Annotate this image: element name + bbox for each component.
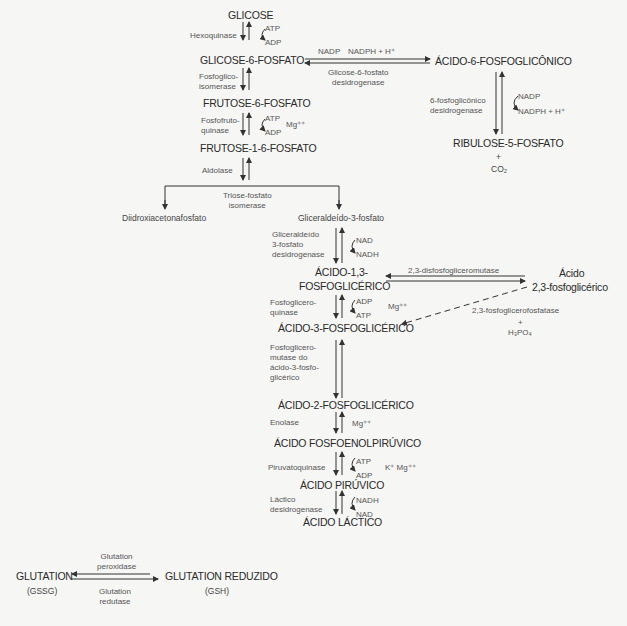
cofactor-bpgp-h3po4: H₃PO₄ <box>508 328 532 338</box>
metabolite-diidroxiacetonafosfato: Diidroxiacetonafosfato <box>122 214 206 223</box>
cofactor-enolase-mg: Mg⁺⁺ <box>352 419 371 429</box>
enzyme-fosfogliceromutase: Fosfoglicero-mutase doácido-3-fosfo-glic… <box>270 343 319 383</box>
metabolite-frutose-6-fosfato: FRUTOSE-6-FOSFATO <box>203 98 310 109</box>
metabolite-acido-fosfoenolpiruvico: ÁCIDO FOSFOENOLPIRÚVICO <box>274 438 421 449</box>
cofactor-pk-atp: ATP <box>356 457 371 467</box>
enzyme-glicose-6-fosfato-desidrogenase: Glicose-6-fosfatodesidrogenase <box>328 68 388 88</box>
metabolite-acido-23-fosfoglicerico-line2: 2,3-fosfoglicérico <box>532 282 608 293</box>
cofactor-g6pd-nadp: NADP <box>318 47 340 57</box>
enzyme-glutation-redutase: Glutationredutase <box>99 587 131 607</box>
metabolite-acido-13-fosfoglicerico-line1: ÁCIDO-1,3- <box>315 267 368 278</box>
enzyme-fosfofrutoquinase: Fosfofruto-quinase <box>201 116 240 136</box>
metabolite-acido-3-fosfoglicerico: ÁCIDO-3-FOSFOGLICÉRICO <box>278 323 414 334</box>
cofactor-pfk-mg: Mg⁺⁺ <box>286 120 305 130</box>
cofactor-pfk-atp: ATP <box>265 114 280 124</box>
cofactor-gapdh-nadh: NADH <box>356 250 379 260</box>
cofactor-pgk-mg: Mg⁺⁺ <box>388 302 407 312</box>
cofactor-pgd-nadp: NADP <box>518 92 540 102</box>
metabolite-acido-piruvico: ÁCIDO PIRÚVICO <box>300 480 384 491</box>
enzyme-6-fosfoglicônico-desidrogenase: 6-fosfoglicônicodesidrogenase <box>430 96 486 116</box>
enzyme-enolase: Enolase <box>270 418 299 428</box>
cofactor-pgk-atp: ATP <box>356 311 371 321</box>
enzyme-fosfogliceroquinase: Fosfoglicero-quinase <box>270 298 316 318</box>
metabolite-glicose: GLICOSE <box>228 10 273 21</box>
enzyme-triose-fosfato-isomerase: Triose-fosfatoisomerase <box>223 191 272 211</box>
enzyme-gliceraldeido-3-fosfato-desidrogenase: Gliceraldeído3-fosfatodesidrogenase <box>272 230 324 260</box>
cofactor-pgk-adp: ADP <box>356 297 372 307</box>
cofactor-pk-ions: K⁺ Mg⁺⁺ <box>385 463 416 473</box>
metabolite-co2: CO₂ <box>491 165 507 174</box>
enzyme-hexoquinase: Hexoquinase <box>190 31 237 41</box>
metabolite-gssg-abbr: (GSSG) <box>27 587 57 596</box>
cofactor-hk-adp: ADP <box>265 38 281 48</box>
enzyme-23-disfosfogliceromutase: 2,3-disfosfogliceromutase <box>408 266 499 276</box>
cofactor-g6pd-nadph: NADPH + H⁺ <box>348 47 395 57</box>
metabolite-acido-6-fosfoglicônico: ÁCIDO-6-FOSFOGLICÔNICO <box>435 56 572 67</box>
metabolite-glutation-reduzido: GLUTATION REDUZIDO <box>165 571 278 582</box>
plus-sign: + <box>496 153 501 162</box>
metabolite-frutose-1-6-fosfato: FRUTOSE-1-6-FOSFATO <box>200 143 316 154</box>
cofactor-hk-atp: ATP <box>265 24 280 34</box>
cofactor-bpgp-plus: + <box>518 318 523 328</box>
metabolite-gliceraldeido-3-fosfato: Gliceraldeído-3-fosfato <box>298 214 384 223</box>
metabolite-acido-23-fosfoglicerico-line1: Ácido <box>559 268 584 279</box>
metabolite-acido-2-fosfoglicerico: ÁCIDO-2-FOSFOGLICÉRICO <box>278 400 414 411</box>
metabolite-gsh-abbr: (GSH) <box>205 587 229 596</box>
metabolite-glutation: GLUTATION <box>16 571 73 582</box>
cofactor-ldh-nad: NAD <box>356 510 373 520</box>
cofactor-ldh-nadh: NADH <box>356 496 379 506</box>
metabolite-glicose-6-fosfato: GLICOSE-6-FOSFATO <box>200 55 304 66</box>
enzyme-piruvatoquinase: Piruvatoquinase <box>268 463 325 473</box>
cofactor-pfk-adp: ADP <box>265 128 281 138</box>
enzyme-glutation-peroxidase: Glutationperoxidase <box>97 552 136 572</box>
enzyme-lactico-desidrogenase: Lácticodesidrogenase <box>270 495 322 515</box>
metabolite-ribulose-5-fosfato: RIBULOSE-5-FOSFATO <box>453 138 563 149</box>
enzyme-fosfoglicoisomerase: Fosfoglico-isomerase <box>199 72 238 92</box>
enzyme-23-fosfoglicerofosfatase: 2,3-fosfoglicerofosfatase <box>472 306 559 316</box>
metabolite-acido-13-fosfoglicerico-line2: FOSFOGLICÉRICO <box>299 281 390 292</box>
enzyme-aldolase: Aldolase <box>202 166 233 176</box>
cofactor-gapdh-nad: NAD <box>356 236 373 246</box>
cofactor-pk-adp: ADP <box>356 471 372 481</box>
cofactor-pgd-nadph: NADPH + H⁺ <box>518 107 565 117</box>
